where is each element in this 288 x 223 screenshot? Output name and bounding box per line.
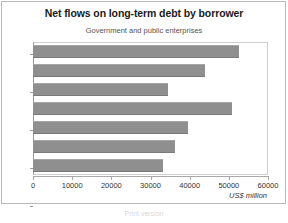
x-axis-tick-40000 bbox=[190, 176, 191, 180]
plot-area: 1996199519941993199219911990 bbox=[33, 42, 268, 175]
x-axis-tick-0 bbox=[33, 176, 34, 180]
chart-title: Net flows on long-term debt by borrower bbox=[0, 7, 288, 19]
bar-row: 1990 bbox=[33, 159, 163, 172]
x-axis-tick-20000 bbox=[111, 176, 112, 180]
x-axis-tick-60000 bbox=[268, 176, 269, 180]
bar-1991 bbox=[33, 140, 175, 153]
x-axis-unit-label: US$ million bbox=[229, 191, 267, 200]
y-axis-tick-1992 bbox=[30, 206, 33, 207]
bar-row: 1993 bbox=[33, 102, 232, 115]
footer-note: Print version bbox=[0, 210, 288, 223]
x-axis-tick-label-60000: 60000 bbox=[245, 181, 288, 190]
chart-subtitle: Government and public enterprises bbox=[0, 26, 288, 35]
bar-1995 bbox=[33, 64, 205, 77]
bar-1990 bbox=[33, 159, 163, 172]
chart-screenshot: Net flows on long-term debt by borrower … bbox=[0, 0, 288, 223]
bar-row: 1994 bbox=[33, 83, 168, 96]
x-axis-tick-30000 bbox=[151, 176, 152, 180]
bar-row: 1996 bbox=[33, 45, 239, 58]
bar-1993 bbox=[33, 102, 232, 115]
bar-row: 1991 bbox=[33, 140, 175, 153]
bar-1996 bbox=[33, 45, 239, 58]
bar-row: 1992 bbox=[33, 121, 188, 134]
bar-row: 1995 bbox=[33, 64, 205, 77]
y-axis-tick-1996 bbox=[30, 54, 33, 55]
x-axis-tick-10000 bbox=[72, 176, 73, 180]
bar-1994 bbox=[33, 83, 168, 96]
bar-1992 bbox=[33, 121, 188, 134]
x-axis-tick-50000 bbox=[229, 176, 230, 180]
